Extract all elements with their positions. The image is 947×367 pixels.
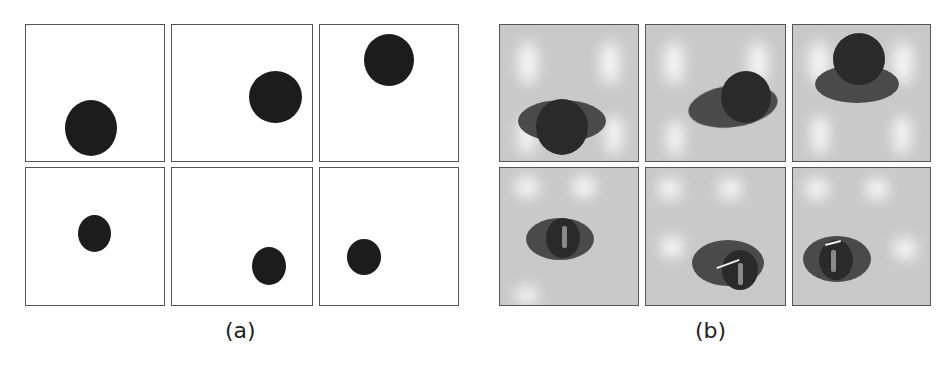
mask-blob: [347, 239, 381, 275]
image-cell-b-r0-c1: [645, 24, 786, 162]
image-cell-b-r1-c2: [792, 167, 931, 306]
mask-blob: [65, 100, 117, 156]
mask-cell-a-r1-c1: [171, 167, 313, 306]
mask-blob: [78, 215, 111, 252]
image-cell-b-r1-c0: [499, 167, 639, 306]
mask-cell-a-r1-c2: [319, 167, 459, 306]
mask-cell-a-r0-c0: [25, 24, 165, 162]
caption-a: (a): [225, 318, 256, 343]
object-stem: [831, 250, 836, 272]
image-cell-b-r0-c2: [792, 24, 931, 162]
image-cell-b-r0-c0: [499, 24, 639, 162]
object-body: [833, 33, 885, 85]
mask-cell-a-r0-c1: [171, 24, 313, 162]
object-stem: [562, 226, 567, 248]
image-cell-b-r1-c1: [645, 167, 786, 306]
mask-blob: [249, 71, 302, 123]
mask-blob: [252, 247, 286, 285]
mask-cell-a-r1-c0: [25, 167, 165, 306]
object-core: [819, 240, 853, 280]
mask-cell-a-r0-c2: [319, 24, 459, 162]
caption-b: (b): [695, 318, 726, 343]
object-stem: [738, 263, 743, 285]
object-body: [721, 71, 771, 123]
object-body: [536, 99, 588, 155]
mask-blob: [364, 34, 414, 86]
